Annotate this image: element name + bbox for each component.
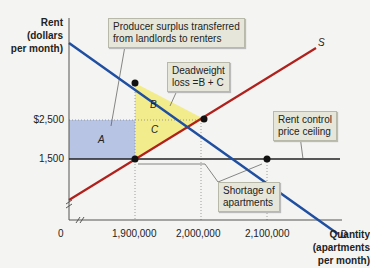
callout-text: from landlords to renters (113, 33, 240, 45)
callout-text: loss =B + C (172, 77, 225, 89)
y-axis-title: Rent (dollars per month) (0, 16, 63, 55)
callout-deadweight-loss: Deadweight loss =B + C (167, 62, 230, 92)
y-axis-title-line: (dollars (0, 29, 63, 42)
x-tick-2100000: 2,100,000 (245, 228, 290, 239)
callout-shortage: Shortage of apartments (218, 182, 280, 212)
point-supply-at-ceiling (132, 156, 139, 163)
y-tick-1500: 1,500 (0, 153, 64, 164)
x-tick-2000000: 2,000,000 (176, 228, 221, 239)
y-axis-title-line: per month) (0, 42, 63, 55)
point-demand-at-ceiling (264, 156, 271, 163)
x-axis-title: Quantity (apartments per month) (290, 228, 370, 267)
point-demand-at-1900000 (132, 80, 139, 87)
callout-text: Producer surplus transferred (113, 21, 240, 33)
callout-text: Rent control (278, 114, 332, 126)
callout-text: price ceiling (278, 126, 332, 138)
x-axis-title-line: Quantity (290, 228, 370, 241)
y-tick-2500: $2,500 (0, 114, 64, 125)
callout-text: Shortage of (223, 185, 275, 197)
area-bc (135, 83, 204, 159)
x-tick-0: 0 (58, 228, 64, 239)
callout-text: apartments (223, 197, 275, 209)
x-axis-title-line: (apartments (290, 241, 370, 254)
callout-producer-surplus: Producer surplus transferred from landlo… (108, 18, 245, 48)
supply-label: S (318, 37, 325, 48)
y-axis-title-line: Rent (0, 16, 63, 29)
callout-text: Deadweight (172, 65, 225, 77)
area-b-label: B (150, 99, 157, 110)
callout-price-ceiling: Rent control price ceiling (273, 111, 337, 141)
leader-producer-surplus (111, 46, 125, 126)
x-tick-1900000: 1,900,000 (112, 228, 157, 239)
area-c-label: C (151, 124, 158, 135)
area-a-label: A (98, 134, 105, 145)
point-equilibrium (201, 116, 208, 123)
demand-label: D (340, 229, 347, 240)
x-axis-title-line: per month) (290, 254, 370, 267)
